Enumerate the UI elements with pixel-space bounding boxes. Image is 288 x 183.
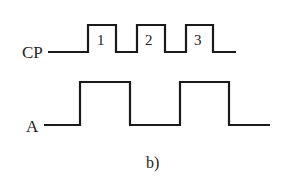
cp-pulse-label-2: 2 bbox=[145, 32, 153, 48]
diagram-caption: b) bbox=[146, 154, 159, 172]
a-signal: A bbox=[26, 82, 270, 136]
cp-signal: CP 1 2 3 bbox=[22, 25, 236, 62]
cp-waveform bbox=[48, 25, 236, 52]
cp-pulse-label-1: 1 bbox=[97, 32, 105, 48]
a-label: A bbox=[26, 117, 39, 136]
timing-diagram: CP 1 2 3 A b) bbox=[0, 0, 288, 183]
cp-pulse-label-3: 3 bbox=[194, 32, 202, 48]
a-waveform bbox=[44, 82, 270, 125]
cp-label: CP bbox=[22, 43, 43, 62]
